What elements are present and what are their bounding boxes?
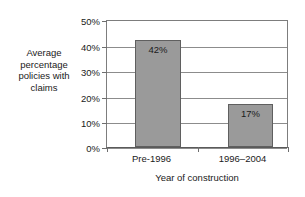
y-tick-label-10: 10% <box>81 118 100 129</box>
y-axis-title-line-2: percentage <box>0 59 88 71</box>
y-tick-mark-30 <box>102 72 107 73</box>
y-tick-label-20: 20% <box>81 92 100 103</box>
gridline-40 <box>107 47 287 48</box>
x-category-label-1996-2004: 1996–2004 <box>197 153 288 164</box>
bar-pre-1996[interactable]: 42% <box>135 40 181 148</box>
bar-value-label-1996-2004: 17% <box>229 108 272 119</box>
y-axis-title-line-3: policies with <box>0 70 88 82</box>
gridline-20 <box>107 98 287 99</box>
y-axis-title-line-4: claims <box>0 82 88 94</box>
x-category-label-pre-1996: Pre-1996 <box>106 153 197 164</box>
y-axis-title: Average percentage policies with claims <box>0 47 88 93</box>
y-tick-label-50: 50% <box>81 16 100 27</box>
y-tick-mark-40 <box>102 47 107 48</box>
y-tick-label-0: 0% <box>86 143 100 154</box>
bar-chart-figure: Average percentage policies with claims … <box>0 0 305 197</box>
y-tick-label-40: 40% <box>81 41 100 52</box>
x-tick-mark-start <box>107 147 108 152</box>
gridline-0 <box>107 148 287 149</box>
y-axis-title-line-1: Average <box>0 47 88 59</box>
y-tick-mark-20 <box>102 98 107 99</box>
y-tick-label-30: 30% <box>81 67 100 78</box>
x-tick-mark-end <box>288 147 289 152</box>
x-axis-title: Year of construction <box>106 172 288 183</box>
bar-value-label-pre-1996: 42% <box>136 44 180 55</box>
plot-area: 0% 10% 20% 30% 40% 50% 42% 17% <box>106 20 288 148</box>
gridline-30 <box>107 72 287 73</box>
y-tick-mark-50 <box>102 21 107 22</box>
x-tick-mark-middle <box>198 147 199 152</box>
y-tick-mark-10 <box>102 123 107 124</box>
bar-1996-2004[interactable]: 17% <box>228 104 273 148</box>
